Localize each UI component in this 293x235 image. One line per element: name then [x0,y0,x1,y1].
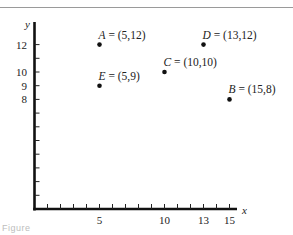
data-point-c [162,70,167,75]
y-tick-label: 9 [22,80,28,92]
point-label-e: E = (5,9) [98,70,140,83]
point-label-b: B = (15,8) [229,83,276,96]
data-point-a [97,42,102,47]
point-name: B [229,83,236,95]
figure-caption: Figure [2,223,31,233]
scatter-chart: yx5101315891012A = (5,12)B = (15,8)C = (… [0,0,293,235]
x-tick-label: 13 [198,214,210,226]
y-tick-label: 8 [22,93,28,105]
x-axis-label: x [241,204,247,216]
data-point-e [97,83,102,88]
x-tick-label: 15 [224,214,236,226]
point-coords: = (10,10) [171,56,217,69]
y-tick-label: 12 [16,39,27,51]
point-label-d: D = (13,12) [202,29,257,42]
x-tick-label: 5 [97,214,103,226]
point-coords: = (5,9) [106,70,140,83]
point-coords: = (13,12) [211,29,257,42]
data-point-d [201,42,206,47]
x-tick-label: 10 [159,214,171,226]
point-coords: = (5,12) [106,29,146,42]
point-coords: = (15,8) [236,83,276,96]
y-tick-label: 10 [16,66,28,78]
y-axis-label: y [24,18,30,30]
data-point-b [227,97,232,102]
point-name: E [98,70,106,82]
point-label-a: A = (5,12) [98,29,146,42]
point-label-c: C = (10,10) [164,56,218,69]
